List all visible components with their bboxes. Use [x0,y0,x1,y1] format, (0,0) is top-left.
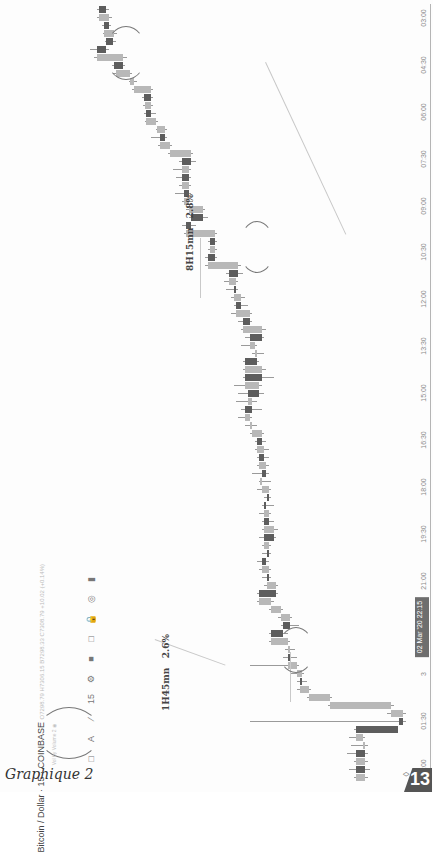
candle-body-up [236,310,250,317]
time-axis-tick: 04:30 [420,56,427,74]
candle-body-down [229,270,238,277]
candle-body-down [243,318,250,325]
candle-body-up [248,398,253,405]
candle-body-up [252,430,261,437]
candle-body-up [229,278,236,285]
annotation-8h15-percent: 2.8% [185,194,195,218]
candle-body-up [262,566,269,573]
candle-body-up [208,262,239,269]
time-axis-tick: 18:00 [420,478,427,496]
candle-body-down [259,590,276,597]
candle-body-down [267,550,269,557]
candle-body-up [182,182,189,189]
candle-body-up [264,510,269,517]
chart-title-line: Bitcoin / Dollar · 15 · COINBASE O7298.7… [36,564,46,853]
time-axis-tick: 3 [420,672,427,676]
candle-body-up [250,422,252,429]
page-number: 13 [410,769,430,790]
chart-frame: 03:0004:3006:0007:3009:0010:3012:0013:30… [31,4,431,774]
visibility-icon[interactable]: ◎ [86,594,96,604]
annotation-1h45: 1H45mn 2.6% [161,634,171,711]
candle-body-down [259,454,264,461]
candle-body-up [255,350,257,357]
candle-body-up [245,414,250,421]
candle-body-down [236,302,241,309]
candle-body-down [356,750,365,757]
candle-body-down [264,534,273,541]
candle-body-down [248,390,260,397]
candle-body-down [182,174,189,181]
trendline-tool-icon[interactable]: ∕ [86,714,96,724]
time-axis-tick: 21:00 [420,572,427,590]
candle-body-down [160,134,165,141]
candle-body-down [267,494,269,501]
candle-body-up [146,118,155,125]
annotation-8h15-duration: 8H15mn [185,228,195,271]
candle-body-down [262,558,267,565]
candle-body-down [146,110,151,117]
candle-body-down [245,374,262,381]
candle-body-up [281,614,290,621]
candle-body-up [259,462,266,469]
annotation-8h15: 8H15mn 2.8% [185,194,195,271]
candle-body-up [160,142,169,149]
arc-bracket-low-2 [278,627,314,673]
candle-body-down [262,470,267,477]
candle-body-up [391,710,403,717]
candle-body-up [243,326,262,333]
lock-icon[interactable]: 🔒 [86,614,96,624]
candle-body-down [300,678,302,685]
drawing-toolbar: □A∕15⚙■□🔒◎▮ [86,574,96,764]
candle-body-up [182,166,189,173]
text-tool-icon[interactable]: A [86,734,96,744]
candle-body-up [170,150,191,157]
candle-body-down [356,766,365,773]
candle-body-down [104,22,109,29]
more-icon[interactable]: ▮ [86,574,96,584]
rectangle-tool-icon[interactable]: □ [86,754,96,764]
shape-select-icon[interactable]: □ [86,634,96,644]
ohlc-values: O7298.79 H7306.15 B7298.33 C7308.79 +10.… [39,564,45,719]
candle-wick [226,289,238,290]
time-axis-tick: 06:00 [420,103,427,121]
candle-body-up [245,366,262,373]
settings-gear-icon[interactable]: ⚙ [86,674,96,684]
candle-body-up [356,734,363,741]
time-axis-tick: 12:00 [420,290,427,308]
candle-body-up [262,486,269,493]
candle-body-down [264,518,269,525]
interval-15-icon[interactable]: 15 [86,694,96,704]
time-axis-tick: 03:00 [420,9,427,27]
figure-caption: Graphique 2 [5,766,93,782]
candle-body-down [182,158,191,165]
candle-body-down [144,94,151,101]
candle-body-down [234,286,236,293]
time-axis-tick: 01:30 [420,712,427,730]
candle-body-down [264,502,266,509]
candle-body-down [245,406,252,413]
time-axis-crosshair-label: 02 Mar '20 22:15 [415,597,429,657]
candle-body-up [259,598,271,605]
time-axis-tick: 19:30 [420,525,427,543]
chart-settings-icon[interactable]: ◊ [401,772,411,776]
time-axis-tick: 16:30 [420,431,427,449]
candle-body-up [271,606,280,613]
time-axis-tick: 07:30 [420,150,427,168]
eye-icon[interactable]: ◉ [51,724,57,728]
measure-line-8h15 [200,238,201,298]
time-axis-tick: 13:30 [420,337,427,355]
candle-body-up [210,246,215,253]
time-axis-line [430,4,431,774]
candle-body-up [135,86,152,93]
candle-body-down [356,726,398,733]
candle-body-up [330,702,391,709]
candle-body-up [260,478,262,485]
candle-body-down [208,254,215,261]
candle-body-up [99,14,108,21]
candle-body-down [250,334,262,341]
candlestick-plot[interactable] [85,4,415,774]
candle-body-up [264,542,269,549]
candle-body-up [145,102,151,109]
fill-color-icon[interactable]: ■ [86,654,96,664]
candle-body-up [264,526,273,533]
